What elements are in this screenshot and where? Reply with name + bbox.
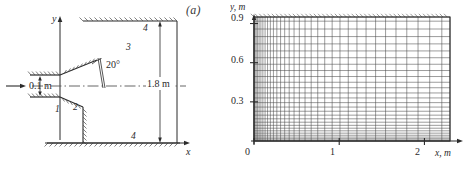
region-label-3: 3 bbox=[125, 42, 131, 52]
deflection-angle-label: 20° bbox=[106, 59, 120, 70]
chamber-height-arrow-down bbox=[158, 138, 162, 144]
upper-lip-hatching bbox=[64, 59, 95, 74]
x-tick-label-1: 1 bbox=[330, 146, 335, 157]
inlet-height-label: 0.1 m bbox=[29, 80, 52, 91]
panel-a-drawing: y x 0.1 m 1.8 m 20° bbox=[0, 0, 230, 169]
region-label-1: 1 bbox=[55, 104, 60, 114]
figure-container: y x 0.1 m 1.8 m 20° bbox=[0, 0, 476, 169]
y-tick-label-0.6: 0.6 bbox=[231, 54, 244, 65]
mesh-horizontal-lines bbox=[254, 17, 450, 141]
upper-deflected-lip bbox=[60, 60, 97, 75]
lower-flare-wall bbox=[60, 97, 83, 107]
x-tick-label-0: 0 bbox=[245, 146, 250, 157]
region-label-4-top: 4 bbox=[143, 23, 148, 33]
panel-a-x-axis-label: x bbox=[185, 146, 191, 157]
panel-b-x-axis-title: x, m bbox=[434, 148, 451, 158]
panel-b-drawing: 0.9 0.6 0.3 0 1 2 y, m x, m bbox=[230, 0, 476, 169]
chamber-height-arrow-up bbox=[158, 21, 162, 27]
chamber-height-label: 1.8 m bbox=[147, 78, 170, 89]
panel-a-y-axis-label: y bbox=[51, 13, 57, 24]
region-label-4-bottom: 4 bbox=[131, 131, 136, 141]
panel-b-computational-mesh: 0.9 0.6 0.3 0 1 2 y, m x, m (b) bbox=[230, 0, 476, 169]
panel-a-y-axis-arrowhead bbox=[58, 16, 63, 22]
region-label-2: 2 bbox=[73, 102, 78, 112]
y-tick-label-0.3: 0.3 bbox=[231, 95, 244, 106]
panel-a-geometry-schematic: y x 0.1 m 1.8 m 20° bbox=[0, 0, 230, 169]
panel-a-x-axis-arrowhead bbox=[184, 141, 190, 146]
panel-b-y-axis-title: y, m bbox=[230, 2, 245, 12]
y-tick-label-0.9: 0.9 bbox=[231, 12, 244, 23]
panel-a-caption: (a) bbox=[186, 3, 201, 18]
inflow-arrow-head bbox=[20, 84, 26, 89]
panel-b-x-axis-arrowhead bbox=[457, 139, 463, 143]
x-tick-label-2: 2 bbox=[415, 146, 420, 157]
